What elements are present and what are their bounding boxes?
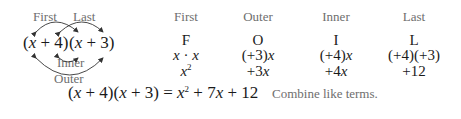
letter-l: L — [409, 33, 418, 48]
combine-note: Combine like terms. — [272, 87, 378, 100]
product-inner: (+4)x — [320, 48, 353, 63]
header-first: First — [174, 10, 198, 23]
letter-o: O — [253, 33, 264, 48]
result-first: x2 — [180, 64, 191, 79]
result-inner: +4x — [325, 64, 348, 79]
header-inner: Inner — [322, 10, 349, 23]
header-outer: Outer — [243, 10, 273, 23]
result-last: +12 — [402, 64, 425, 79]
product-first: x · x — [173, 48, 199, 63]
result-outer: +3x — [247, 64, 270, 79]
letter-i: I — [334, 33, 339, 48]
product-last: (+4)(+3) — [388, 48, 440, 63]
header-last: Last — [403, 10, 425, 23]
product-outer: (+3)x — [242, 48, 275, 63]
equation-expression: (x + 4)(x + 3) = x2 + 7x + 12 — [68, 84, 258, 101]
letter-f: F — [182, 33, 190, 48]
foil-arrows-icon — [0, 0, 140, 95]
